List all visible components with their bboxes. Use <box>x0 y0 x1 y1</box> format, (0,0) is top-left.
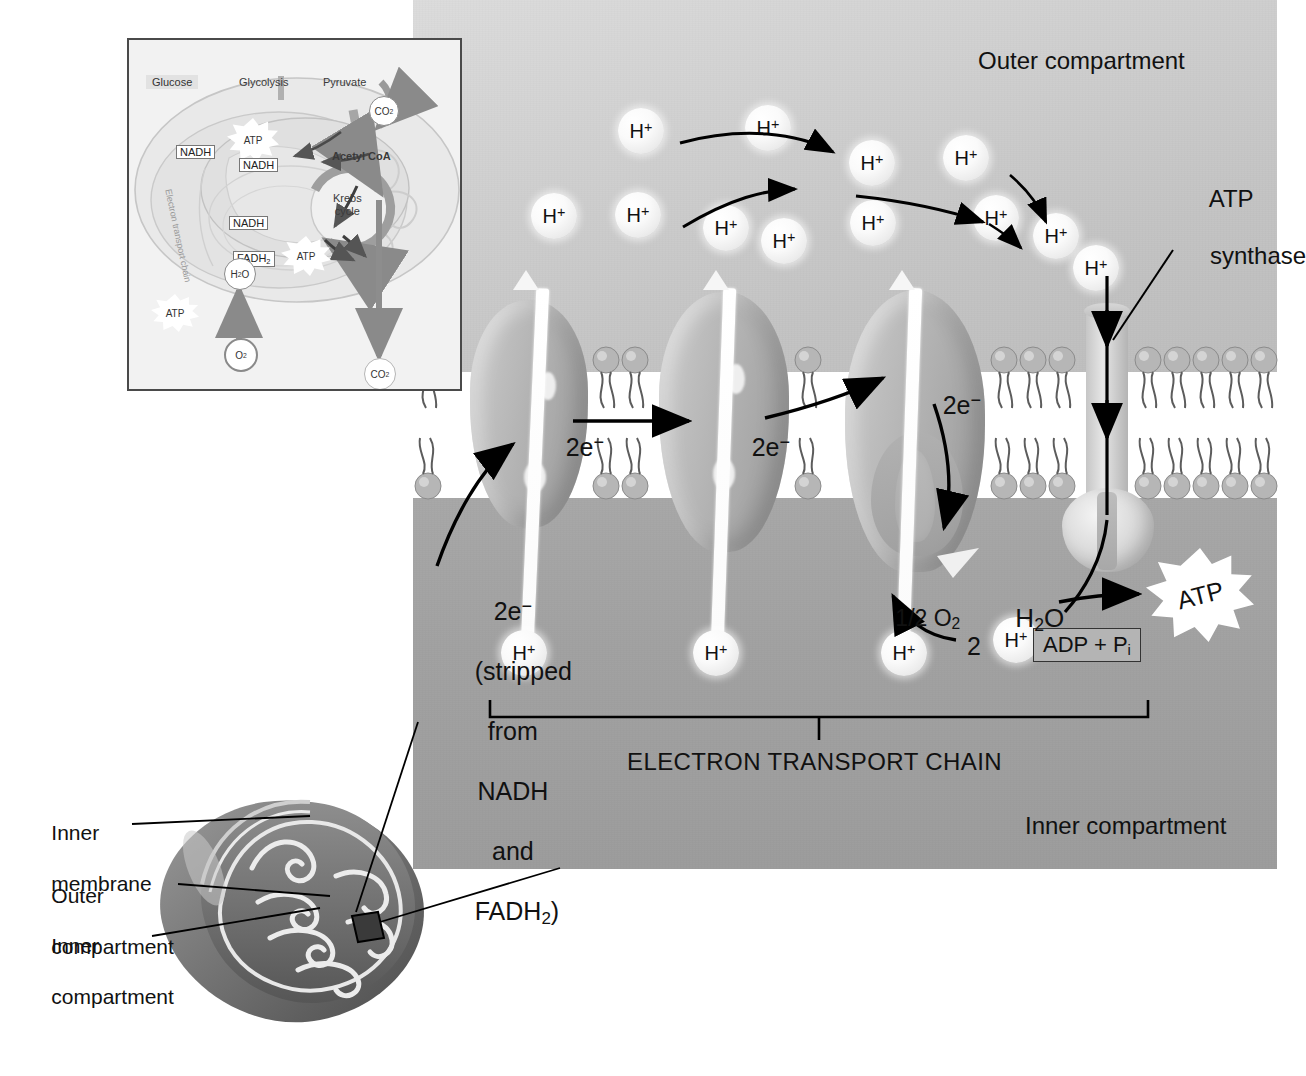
atp-synthase-top-cap <box>1084 303 1130 319</box>
electron-source-line-3: from <box>488 717 538 745</box>
proton-label: H+ <box>715 216 738 240</box>
proton-label: H+ <box>1085 256 1108 280</box>
half-oxygen-label: 1/2 O2 <box>857 578 960 661</box>
electron-label-2: 2e− <box>710 402 790 491</box>
inset-atp-glycolysis: ATP <box>227 118 279 162</box>
electron-source-line-4: NADH <box>477 777 548 805</box>
water-sub: 2 <box>1034 615 1044 635</box>
atp-burst-label: ATP <box>1174 575 1226 614</box>
inset-acetyl-coa-label: Acetyl CoA <box>332 150 391 162</box>
proton-label: H+ <box>773 229 796 253</box>
proton-label: H+ <box>630 119 653 143</box>
etc-label: ELECTRON TRANSPORT CHAIN <box>627 748 1002 776</box>
water-text: H <box>1015 603 1034 633</box>
electron-label-3: 2e− <box>901 360 981 449</box>
proton-h-plus: H+ <box>943 135 989 181</box>
proton-h-plus: H+ <box>618 108 664 154</box>
mito-label-inner-compartment: Inner compartment <box>28 908 174 1034</box>
electron-source-line-1: 2e− <box>494 597 532 625</box>
inset-co2-top-text: CO <box>375 106 390 117</box>
inset-atp-etc: ATP <box>151 294 199 332</box>
inset-oxygen-circle: O2 <box>224 338 258 372</box>
proton-label: H+ <box>862 211 885 235</box>
electron-label-1-charge: − <box>594 432 605 452</box>
inset-atp-krebs: ATP <box>281 236 331 276</box>
proton-h-plus: H+ <box>693 630 739 676</box>
inset-co2-top-circle: CO2 <box>369 96 399 126</box>
inset-glucose-label: Glucose <box>146 75 198 89</box>
proton-channel-1-arrowhead <box>513 270 539 290</box>
proton-label: H+ <box>543 204 566 228</box>
electron-label-2-text: 2e <box>752 432 780 460</box>
inset-nadh-3: NADH <box>229 216 268 230</box>
electron-label-1-text: 2e <box>566 432 594 460</box>
main-diagram-panel: H+H+H+H+H+H+H+H+H+H+H+H+ H+H+H+H+ <box>413 0 1277 869</box>
proton-h-plus: H+ <box>849 140 895 186</box>
mitochondrion-illustration <box>140 772 440 1052</box>
water-label: H2O <box>972 572 1064 666</box>
inset-water-circle: H2O <box>224 258 256 290</box>
inset-glycolysis-label: Glycolysis <box>239 76 289 88</box>
electron-label-2-charge: − <box>780 432 791 452</box>
proton-label: H+ <box>627 203 650 227</box>
proton-h-plus: H+ <box>850 200 896 246</box>
complex-3-inner-shade <box>871 432 963 556</box>
proton-h-plus: H+ <box>1073 245 1119 291</box>
mitochondrion-art <box>140 772 440 1052</box>
atp-synthase-label-line2: synthase <box>1210 242 1306 269</box>
proton-h-plus: H+ <box>1033 213 1079 259</box>
proton-label: H+ <box>985 206 1008 230</box>
inset-co2-bottom-circle: CO2 <box>364 358 396 390</box>
electron-label-3-charge: − <box>971 390 982 410</box>
proton-channel-2-arrowhead <box>703 270 729 290</box>
proton-label: H+ <box>757 116 780 140</box>
outer-compartment-label: Outer compartment <box>978 47 1185 75</box>
adp-pi-subscript: i <box>1128 641 1131 658</box>
proton-channel-3-arrowhead <box>889 270 915 290</box>
inset-nadh-2: NADH <box>239 158 278 172</box>
electron-source-line-2: (stripped <box>475 657 572 685</box>
proton-label: H+ <box>705 641 728 665</box>
electron-source-line-6: FADH2) <box>475 897 559 925</box>
atp-synthase-label-line1: ATP <box>1209 185 1254 212</box>
inset-krebs-label: Krebs cycle <box>333 192 362 218</box>
atp-synthase-label: ATP synthase <box>1170 157 1306 299</box>
proton-label: H+ <box>861 151 884 175</box>
inset-pyruvate-label: Pyruvate <box>323 76 366 88</box>
half-oxygen-sub: 2 <box>952 616 961 633</box>
proton-h-plus: H+ <box>531 193 577 239</box>
electron-source-note: 2e− (stripped from NADH and FADH2) <box>433 566 551 959</box>
inset-nadh-1: NADH <box>176 145 215 159</box>
inner-compartment-label: Inner compartment <box>1025 812 1226 840</box>
water-tail: O <box>1044 603 1064 633</box>
atp-synthase-head-notch <box>1097 492 1117 570</box>
proton-label: H+ <box>1045 224 1068 248</box>
half-oxygen-text: 1/2 O <box>895 605 951 631</box>
proton-h-plus: H+ <box>973 195 1019 241</box>
two-protons-count: 2 <box>967 632 981 662</box>
cellular-respiration-inset: Glucose Glycolysis Pyruvate Acetyl CoA C… <box>127 38 462 391</box>
proton-h-plus: H+ <box>761 218 807 264</box>
electron-source-line-5: and <box>492 837 534 865</box>
proton-h-plus: H+ <box>745 105 791 151</box>
proton-h-plus: H+ <box>703 205 749 251</box>
electron-label-3-text: 2e <box>943 390 971 418</box>
electron-label-1: 2e− <box>524 402 604 491</box>
proton-h-plus: H+ <box>615 192 661 238</box>
proton-label: H+ <box>955 146 978 170</box>
inset-etc-rotated-label: Electron transport chain <box>163 188 193 283</box>
